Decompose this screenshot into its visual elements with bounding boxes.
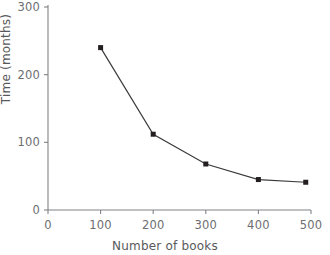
series-line xyxy=(101,48,306,183)
x-axis-ticks xyxy=(48,210,311,214)
y-tick-label: 100 xyxy=(0,135,40,149)
line-chart: 0100200300 0100200300400500 Time (months… xyxy=(0,0,330,255)
x-tick-label: 300 xyxy=(195,218,218,232)
y-axis-ticks xyxy=(44,7,48,210)
y-axis-title: Time (months) xyxy=(0,0,13,119)
y-tick-label: 0 xyxy=(0,203,40,217)
x-tick-label: 0 xyxy=(44,218,52,232)
data-point-marker xyxy=(98,45,103,50)
data-point-marker xyxy=(303,180,308,185)
data-point-marker xyxy=(203,161,208,166)
x-tick-label: 100 xyxy=(89,218,112,232)
x-axis-title: Number of books xyxy=(0,239,330,253)
x-tick-label: 400 xyxy=(247,218,270,232)
data-point-marker xyxy=(256,177,261,182)
series-markers xyxy=(98,45,308,185)
x-tick-label: 500 xyxy=(300,218,323,232)
data-point-marker xyxy=(151,132,156,137)
plot-area xyxy=(0,0,330,255)
x-tick-label: 200 xyxy=(142,218,165,232)
